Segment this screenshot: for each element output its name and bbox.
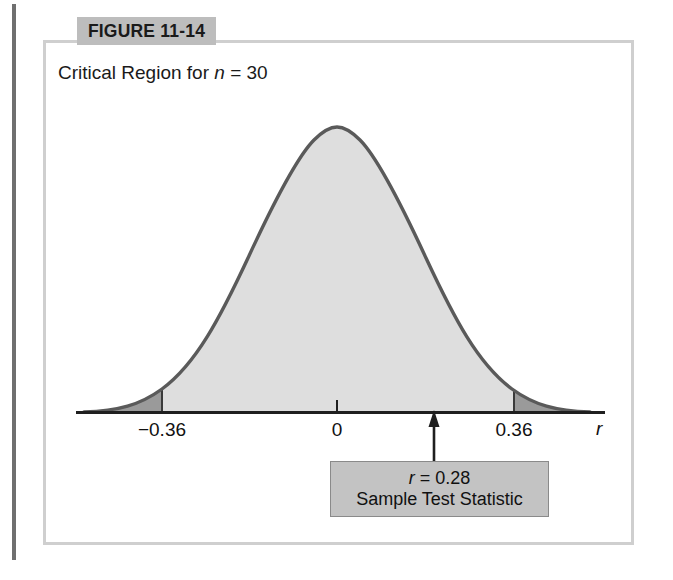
figure-caption-suffix: = 30	[225, 62, 268, 83]
test-statistic-callout: r = 0.28 Sample Test Statistic	[330, 461, 549, 517]
callout-statistic-value: = 0.28	[415, 468, 471, 488]
x-tick-label-positive: 0.36	[496, 419, 533, 441]
figure-number-label: FIGURE 11-14	[88, 21, 205, 42]
x-axis-variable-label: r	[596, 418, 602, 440]
figure-caption: Critical Region for n = 30	[58, 62, 268, 84]
x-tick-label-negative: −0.36	[138, 419, 186, 441]
page-edge-bar	[12, 4, 16, 560]
x-tick-label-zero: 0	[332, 419, 343, 441]
figure-number-tab: FIGURE 11-14	[77, 17, 216, 45]
callout-statistic-line: r = 0.28	[409, 468, 471, 489]
figure-caption-variable: n	[214, 62, 225, 83]
figure-caption-prefix: Critical Region for	[58, 62, 214, 83]
callout-description: Sample Test Statistic	[356, 489, 523, 510]
